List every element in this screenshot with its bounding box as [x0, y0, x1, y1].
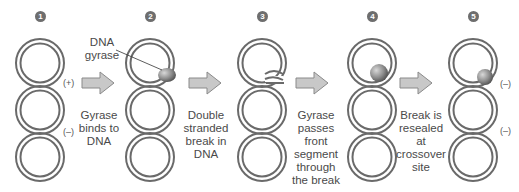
caption-step-2: Double stranded break in DNA	[180, 109, 232, 161]
caption-line: site	[394, 161, 448, 174]
caption-line: DNA	[72, 135, 126, 148]
gyrase-enzyme-icon	[158, 68, 176, 82]
caption-line: resealed at	[394, 122, 448, 148]
caption-line: break in	[180, 135, 232, 148]
step-badge-3: 3	[257, 11, 268, 22]
caption-line: front	[289, 135, 343, 148]
arrow-icon-2-3	[189, 72, 221, 94]
caption-step-3: Gyrase passes front segment through the …	[289, 109, 343, 187]
gyrase-enzyme-icon	[370, 64, 388, 82]
step-badge-5: 5	[468, 11, 479, 22]
caption-line: DNA	[180, 148, 232, 161]
label-line: DNA	[84, 36, 120, 49]
caption-line: binds to	[72, 122, 126, 135]
dna-molecule-step-5	[449, 39, 497, 181]
caption-line: Gyrase	[72, 109, 126, 122]
supercoil-sign-positive: (+)	[63, 78, 74, 88]
gyrase-pointer-line	[116, 50, 162, 70]
caption-line: the break	[289, 174, 343, 187]
caption-line: Double	[180, 109, 232, 122]
dna-molecule-step-4	[348, 39, 396, 181]
caption-line: crossover	[394, 148, 448, 161]
step-badge-1: 1	[35, 11, 46, 22]
caption-line: Gyrase	[289, 109, 343, 122]
dna-molecule-step-1	[16, 39, 64, 181]
step-badge-2: 2	[145, 11, 156, 22]
caption-line: Break is	[394, 109, 448, 122]
arrow-icon-3-4	[296, 72, 328, 94]
arrow-icon-1-2	[82, 72, 114, 94]
gyrase-enzyme-icon	[477, 69, 493, 85]
label-line: gyrase	[84, 49, 120, 62]
caption-line: stranded	[180, 122, 232, 135]
caption-step-1: Gyrase binds to DNA	[72, 109, 126, 148]
step-badge-4: 4	[367, 11, 378, 22]
caption-step-4: Break is resealed at crossover site	[394, 109, 448, 174]
caption-line: passes	[289, 122, 343, 135]
caption-line: segment	[289, 148, 343, 161]
caption-line: through	[289, 161, 343, 174]
arrow-icon-4-5	[400, 72, 432, 94]
dna-molecule-step-3	[238, 39, 286, 181]
dna-gyrase-label: DNA gyrase	[84, 36, 120, 62]
supercoil-sign-negative: (–)	[500, 126, 511, 136]
supercoil-sign-negative: (–)	[500, 79, 511, 89]
